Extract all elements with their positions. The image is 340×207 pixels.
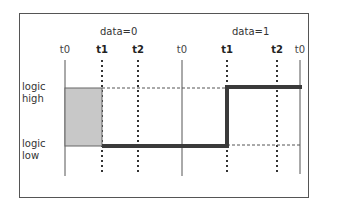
- undefined-region: [65, 88, 102, 146]
- signal-waveform: [102, 87, 302, 146]
- timing-diagram-graphic: [0, 0, 340, 207]
